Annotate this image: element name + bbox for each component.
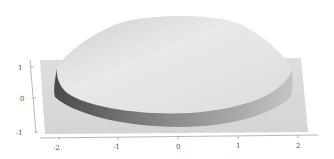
y-tick-label: 0 (20, 95, 24, 103)
y-tick-label: 1 (18, 64, 22, 72)
x-tick-label: 0 (176, 143, 180, 151)
x-tick-label: 1 (236, 142, 240, 150)
y-ticks: 1 0 -1 (16, 64, 38, 137)
x-tick-label: -1 (113, 143, 120, 151)
surface-plot: 1 0 -1 -2 -1 0 1 2 (0, 0, 334, 159)
x-axis-line (40, 135, 318, 138)
surface-top (57, 16, 292, 113)
y-axis-line (30, 60, 36, 133)
x-tick-label: 2 (296, 142, 300, 150)
y-tick-label: -1 (16, 129, 23, 137)
x-tick-label: -2 (53, 144, 60, 152)
